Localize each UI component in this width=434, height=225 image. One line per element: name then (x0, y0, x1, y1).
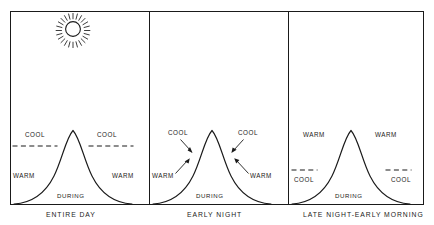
label-cool-left-2: COOL (168, 129, 188, 136)
panel-entire-day: COOL COOL WARM WARM DURING ENTIRE DAY (13, 13, 134, 218)
label-cool-right-3: COOL (391, 176, 411, 183)
label-cool-left-1: COOL (25, 131, 45, 138)
label-during-1: DURING (57, 192, 85, 199)
outer-border (11, 12, 424, 205)
figure-canvas: COOL COOL WARM WARM DURING ENTIRE DAY (0, 0, 434, 225)
label-warm-right-1: WARM (112, 172, 134, 179)
sun-icon (56, 13, 91, 48)
caption-early-night: EARLY NIGHT (187, 211, 242, 218)
caption-entire-day: ENTIRE DAY (46, 211, 96, 218)
label-warm-right-2: WARM (250, 172, 272, 179)
label-warm-left-2: WARM (152, 172, 174, 179)
label-during-2: DURING (196, 192, 224, 199)
arrow-warm-left-2 (176, 158, 190, 173)
label-during-3: DURING (335, 192, 363, 199)
panel-frames (11, 12, 424, 205)
label-warm-left-1: WARM (13, 172, 35, 179)
arrow-cool-left-2 (181, 140, 193, 154)
label-warm-right-3: WARM (375, 131, 397, 138)
label-cool-right-1: COOL (97, 131, 117, 138)
caption-late-night-early-morning: LATE NIGHT-EARLY MORNING (303, 211, 424, 218)
label-cool-right-2: COOL (238, 129, 258, 136)
label-warm-left-3: WARM (303, 131, 325, 138)
arrow-warm-right-2 (234, 158, 248, 173)
arrow-cool-right-2 (231, 140, 243, 154)
temperature-cycle-figure: COOL COOL WARM WARM DURING ENTIRE DAY (0, 0, 434, 225)
label-cool-left-3: COOL (294, 176, 314, 183)
